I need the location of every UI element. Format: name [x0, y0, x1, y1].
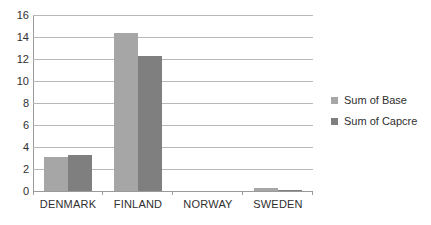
legend-label: Sum of Capcre [344, 115, 417, 127]
y-axis-tick-labels: 1614121086420 [0, 15, 29, 191]
chart-legend: Sum of BaseSum of Capcre [331, 94, 417, 127]
bar[interactable] [114, 33, 138, 191]
bar[interactable] [44, 157, 68, 191]
legend-label: Sum of Base [344, 94, 407, 106]
x-axis-tick [242, 191, 243, 195]
bar[interactable] [138, 56, 162, 191]
bar-group-bars [173, 15, 243, 191]
x-tick-label: DENMARK [33, 198, 103, 210]
y-tick-label: 10 [3, 76, 29, 87]
y-tick-label: 4 [3, 142, 29, 153]
y-tick-label: 14 [3, 32, 29, 43]
bar-group-bars [103, 15, 173, 191]
bar-group-bars [243, 15, 313, 191]
x-axis-tick [102, 191, 103, 195]
bar-group [33, 15, 103, 191]
x-axis-tick [312, 191, 313, 195]
legend-swatch-icon [331, 97, 338, 104]
plot-area [33, 15, 313, 191]
y-tick-label: 12 [3, 54, 29, 65]
y-tick-label: 0 [3, 186, 29, 197]
x-tick-label: NORWAY [173, 198, 243, 210]
legend-item[interactable]: Sum of Capcre [331, 115, 417, 127]
x-axis-tick [172, 191, 173, 195]
x-axis-tick-labels: DENMARKFINLANDNORWAYSWEDEN [33, 198, 313, 210]
y-tick-label: 2 [3, 164, 29, 175]
bar[interactable] [68, 155, 92, 191]
y-tick-label: 8 [3, 98, 29, 109]
bar-group-bars [33, 15, 103, 191]
bar-group [173, 15, 243, 191]
bar-chart: 1614121086420 DENMARKFINLANDNORWAYSWEDEN… [0, 0, 431, 225]
legend-item[interactable]: Sum of Base [331, 94, 417, 106]
bar[interactable] [278, 190, 302, 191]
bar-groups [33, 15, 313, 191]
bar-group [243, 15, 313, 191]
legend-swatch-icon [331, 118, 338, 125]
y-tick-label: 6 [3, 120, 29, 131]
x-tick-label: FINLAND [103, 198, 173, 210]
bar[interactable] [254, 188, 278, 191]
x-tick-label: SWEDEN [243, 198, 313, 210]
bar-group [103, 15, 173, 191]
x-axis-tick [33, 191, 34, 195]
gridline [33, 191, 313, 192]
y-tick-label: 16 [3, 10, 29, 21]
